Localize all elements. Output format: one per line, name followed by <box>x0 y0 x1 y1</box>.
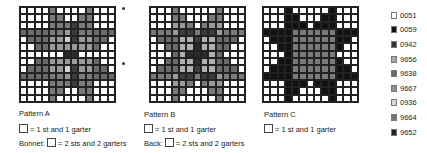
pattern-b-key: = 1 st and 1 garter <box>144 124 216 134</box>
grid-cell <box>78 87 85 94</box>
grid-cell <box>238 87 245 94</box>
grid-cell <box>329 22 336 29</box>
grid-cell <box>230 51 237 58</box>
grid-cell <box>56 7 63 14</box>
grid-cell <box>351 14 358 21</box>
grid-cell <box>201 80 208 87</box>
grid-cell <box>321 22 328 29</box>
pattern-a-key: = 1 st and 1 garter <box>19 124 91 134</box>
grid-cell <box>216 87 223 94</box>
grid-cell <box>93 65 100 72</box>
grid-cell <box>292 22 299 29</box>
grid-cell <box>208 36 215 43</box>
grid-cell <box>56 14 63 21</box>
grid-cell <box>71 58 78 65</box>
grid-cell <box>285 7 292 14</box>
grid-cell <box>172 80 179 87</box>
grid-cell <box>27 7 34 14</box>
grid-cell <box>223 14 230 21</box>
grid-cell <box>86 7 93 14</box>
grid-cell <box>35 80 42 87</box>
grid-cell <box>343 43 350 50</box>
grid-cell <box>299 87 306 94</box>
grid-cell <box>100 80 107 87</box>
grid-cell <box>238 73 245 80</box>
grid-cell <box>223 95 230 102</box>
color-swatch <box>391 99 397 106</box>
grid-cell <box>292 51 299 58</box>
grid-cell <box>150 14 157 21</box>
grid-cell <box>86 29 93 36</box>
grid-cell <box>194 80 201 87</box>
grid-cell <box>42 29 49 36</box>
grid-cell <box>299 29 306 36</box>
grid-cell <box>186 7 193 14</box>
grid-cell <box>343 36 350 43</box>
grid-cell <box>150 43 157 50</box>
grid-cell <box>20 14 27 21</box>
grid-cell <box>165 80 172 87</box>
grid-cell <box>56 29 63 36</box>
grid-cell <box>56 65 63 72</box>
grid-cell <box>343 22 350 29</box>
grid-cell <box>27 14 34 21</box>
grid-cell <box>165 14 172 21</box>
grid-cell <box>186 43 193 50</box>
grid-cell <box>230 80 237 87</box>
grid-cell <box>56 43 63 50</box>
grid-cell <box>150 80 157 87</box>
grid-cell <box>172 43 179 50</box>
grid-cell <box>194 14 201 21</box>
grid-cell <box>336 87 343 94</box>
grid-cell <box>71 43 78 50</box>
grid-cell <box>270 73 277 80</box>
grid-cell <box>307 95 314 102</box>
back-label: Back: <box>144 139 163 148</box>
legend-item: 9638 <box>391 66 417 81</box>
grid-cell <box>42 80 49 87</box>
marker-dot <box>122 7 125 10</box>
grid-cell <box>35 14 42 21</box>
grid-cell <box>56 58 63 65</box>
grid-cell <box>201 43 208 50</box>
grid-cell <box>263 51 270 58</box>
legend-item: 9656 <box>391 52 417 67</box>
grid-cell <box>56 80 63 87</box>
grid-cell <box>329 36 336 43</box>
grid-cell <box>299 65 306 72</box>
grid-cell <box>208 58 215 65</box>
grid-cell <box>49 22 56 29</box>
grid-cell <box>186 87 193 94</box>
grid-cell <box>238 65 245 72</box>
grid-cell <box>35 7 42 14</box>
grid-cell <box>351 95 358 102</box>
grid-cell <box>263 65 270 72</box>
grid-cell <box>336 80 343 87</box>
grid-cell <box>179 73 186 80</box>
grid-cell <box>299 58 306 65</box>
grid-cell <box>201 22 208 29</box>
grid-cell <box>208 43 215 50</box>
grid-cell <box>223 7 230 14</box>
grid-cell <box>49 58 56 65</box>
grid-cell <box>321 65 328 72</box>
grid-cell <box>238 22 245 29</box>
grid-cell <box>223 80 230 87</box>
grid-cell <box>179 87 186 94</box>
grid-cell <box>150 73 157 80</box>
grid-cell <box>321 14 328 21</box>
grid-cell <box>86 14 93 21</box>
grid-cell <box>108 73 115 80</box>
grid-cell <box>64 43 71 50</box>
grid-cell <box>336 65 343 72</box>
grid-cell <box>20 43 27 50</box>
grid-cell <box>329 51 336 58</box>
grid-cell <box>172 58 179 65</box>
grid-cell <box>49 7 56 14</box>
grid-cell <box>329 87 336 94</box>
grid-cell <box>186 51 193 58</box>
grid-cell <box>343 29 350 36</box>
grid-cell <box>307 43 314 50</box>
grid-cell <box>56 87 63 94</box>
grid-cell <box>71 7 78 14</box>
